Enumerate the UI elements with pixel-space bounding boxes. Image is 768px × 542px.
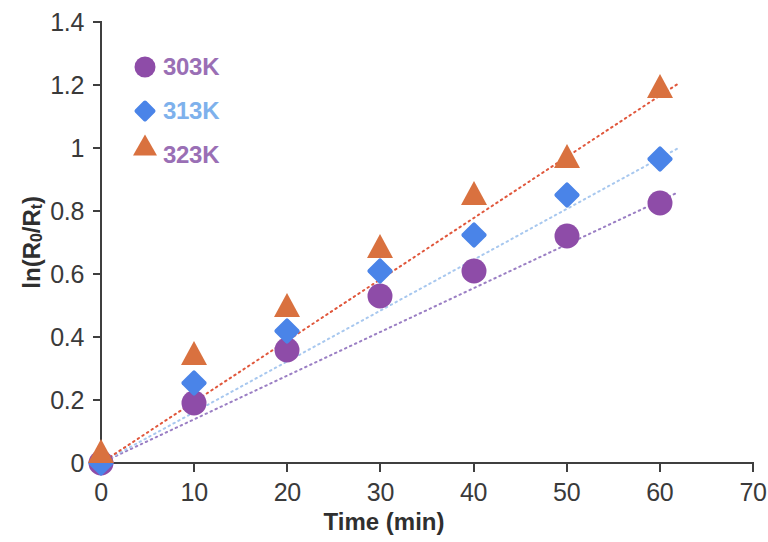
chart-legend: 303K313K323K — [134, 45, 324, 177]
legend-label: 323K — [163, 141, 219, 169]
legend-label: 303K — [163, 53, 219, 81]
y-tick — [93, 399, 101, 401]
data-point-323K — [88, 439, 114, 463]
y-axis-title: ln(R0/Rt) — [18, 152, 47, 332]
y-tick-label: 1.4 — [0, 8, 84, 37]
y-axis-title-suffix: ) — [18, 196, 45, 204]
x-tick — [193, 463, 195, 472]
x-axis-title: Time (min) — [0, 508, 768, 536]
data-point-323K — [461, 181, 487, 205]
legend-item-313K[interactable]: 313K — [134, 89, 324, 133]
y-tick — [93, 21, 101, 23]
y-tick — [93, 210, 101, 212]
legend-marker-triangle-icon — [134, 144, 156, 166]
x-tick-label: 20 — [257, 478, 317, 507]
x-tick-label: 70 — [723, 478, 768, 507]
x-tick — [752, 463, 754, 472]
data-point-313K — [367, 257, 394, 284]
x-tick-label: 30 — [350, 478, 410, 507]
y-axis-title-mid: /R — [18, 209, 45, 233]
data-point-313K — [646, 146, 673, 173]
data-point-323K — [367, 234, 393, 258]
data-point-313K — [460, 221, 487, 248]
legend-label: 313K — [163, 97, 219, 125]
legend-item-323K[interactable]: 323K — [134, 133, 324, 177]
y-tick — [93, 273, 101, 275]
data-point-313K — [181, 369, 208, 396]
trendline-313K — [101, 148, 678, 463]
y-axis-title-sub-zero: 0 — [28, 233, 45, 242]
data-point-323K — [274, 293, 300, 317]
x-tick-label: 40 — [444, 478, 504, 507]
y-tick-label: 0 — [0, 449, 84, 478]
data-point-303K — [368, 284, 393, 309]
x-tick-label: 10 — [164, 478, 224, 507]
data-point-303K — [554, 224, 579, 249]
data-point-303K — [461, 258, 486, 283]
x-tick-label: 0 — [71, 478, 131, 507]
y-tick — [93, 147, 101, 149]
legend-marker-diamond-icon — [134, 100, 156, 122]
y-axis-title-sub-t: t — [28, 204, 45, 209]
x-tick-label: 60 — [630, 478, 690, 507]
data-point-323K — [647, 74, 673, 98]
data-point-313K — [553, 182, 580, 209]
legend-marker-circle-icon — [134, 56, 156, 78]
data-point-323K — [554, 144, 580, 168]
y-tick — [93, 336, 101, 338]
trendline-303K — [101, 192, 678, 463]
data-point-323K — [181, 341, 207, 365]
x-tick-label: 50 — [537, 478, 597, 507]
x-tick — [379, 463, 381, 472]
x-tick — [659, 463, 661, 472]
y-axis-line — [100, 21, 102, 464]
y-tick-label: 0.2 — [0, 386, 84, 415]
x-axis-line — [101, 462, 754, 464]
data-point-303K — [647, 191, 672, 216]
x-tick — [566, 463, 568, 472]
chart-container: 00.20.40.60.811.21.4 010203040506070 303… — [0, 0, 768, 542]
x-tick — [286, 463, 288, 472]
y-axis-title-prefix: ln(R — [18, 242, 45, 289]
legend-item-303K[interactable]: 303K — [134, 45, 324, 89]
y-tick — [93, 84, 101, 86]
x-tick — [473, 463, 475, 472]
y-tick-label: 1.2 — [0, 71, 84, 100]
